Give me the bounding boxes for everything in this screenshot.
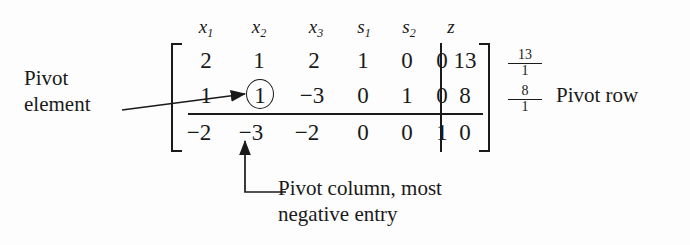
figure-canvas: x1 x2 x3 s1 s2 z 2 1 2 1 0 0 13 1 1 −3 0… (0, 0, 690, 245)
annotation-leader-lines (0, 0, 690, 245)
pivot-element-arrow (122, 94, 245, 110)
pivot-column-arrow (245, 141, 286, 192)
